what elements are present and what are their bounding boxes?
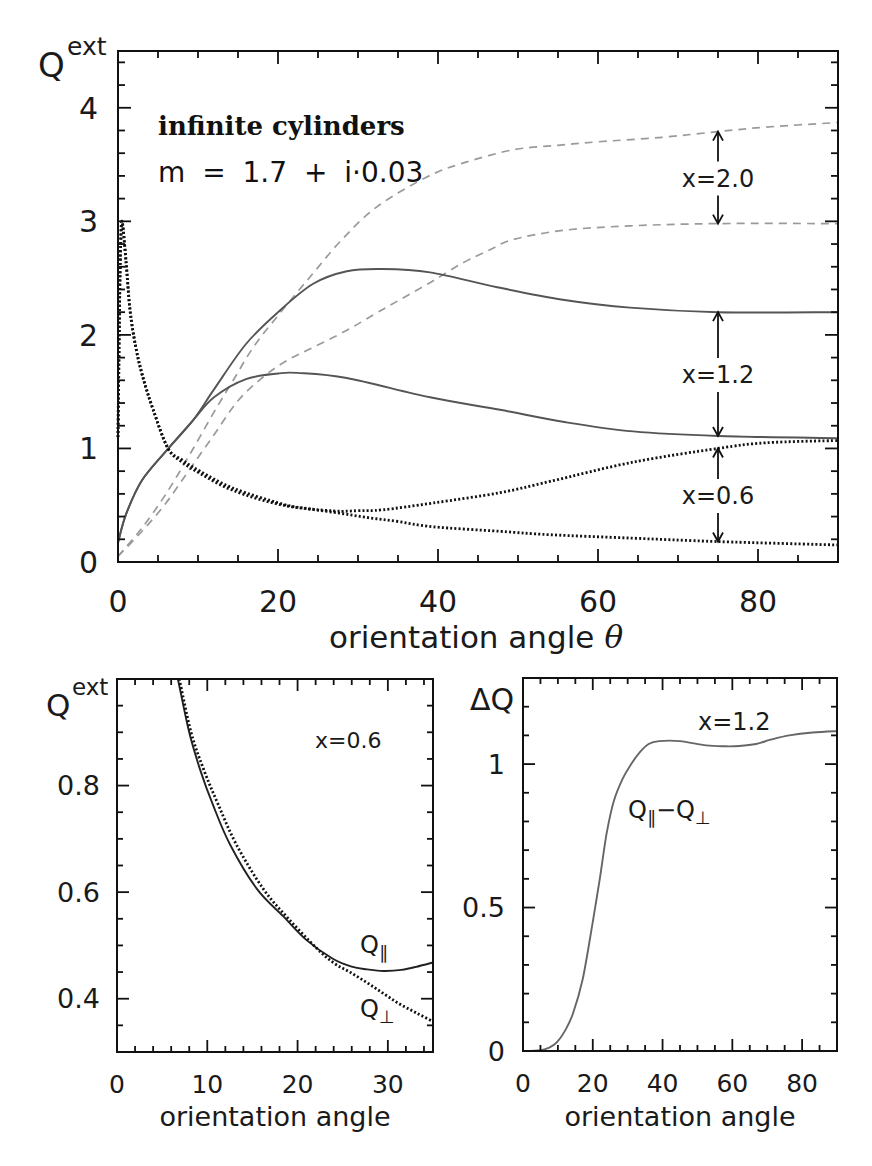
series-line-qpar	[178, 679, 433, 971]
y-tick-label: 4	[79, 91, 98, 126]
y-tick-label: 3	[79, 204, 98, 239]
x-tick-label: 80	[739, 584, 777, 619]
panel-bl: 01020300.40.60.8orientation angleQextx=0…	[46, 674, 433, 1132]
series-group	[178, 679, 433, 1022]
arrow-annotation: x=1.2	[682, 312, 754, 436]
series-line-qpar-minus-qperp	[523, 731, 837, 1051]
arrow-annotation: x=0.6	[682, 448, 754, 541]
plot-frame	[523, 678, 837, 1051]
x-axis-label: orientation angleθ	[329, 619, 623, 655]
annotation-subscript: ∥	[647, 807, 656, 828]
y-tick-label: 0.6	[57, 877, 100, 908]
y-axis-label-superscript: ext	[72, 674, 108, 700]
annotation-part: Q	[360, 995, 379, 1023]
x-tick-label: 0	[109, 1070, 125, 1099]
text-annotation: x=1.2	[698, 708, 770, 736]
y-tick-label: 0	[79, 545, 98, 580]
series-line-x-1-2-qperp	[118, 373, 838, 543]
y-tick-label: 1	[79, 431, 98, 466]
x-axis-label: orientation angle	[159, 1101, 390, 1132]
x-tick-label: 10	[191, 1070, 223, 1099]
x-tick-label: 0	[515, 1069, 531, 1098]
arrow-annotation: x=2.0	[682, 132, 754, 224]
y-tick-label: 0	[488, 1036, 505, 1067]
y-tick-label: 0.8	[57, 770, 100, 801]
annotation-part: Q	[628, 796, 647, 824]
x-tick-label: 80	[786, 1069, 818, 1098]
annotation-subscript: ⊥	[695, 807, 711, 828]
text-annotation: Q∥−Q⊥	[628, 796, 711, 828]
x-tick-label: 60	[716, 1069, 748, 1098]
x-tick-label: 20	[259, 584, 297, 619]
x-axis-label: orientation angle	[564, 1101, 795, 1132]
y-axis-label: ΔQ	[470, 682, 514, 717]
x-axis-label-text: orientation angle	[564, 1101, 795, 1132]
y-axis-label: Q	[46, 687, 70, 723]
text-annotation: Q∥	[360, 931, 388, 963]
x-tick-label: 40	[419, 584, 457, 619]
y-axis-label-superscript: ext	[67, 32, 107, 61]
text-annotation: Q⊥	[360, 995, 395, 1027]
y-axis-label-base: ΔQ	[470, 682, 514, 717]
panel-top: 02040608001234orientation angleθQextinfi…	[38, 32, 838, 655]
y-tick-label: 2	[79, 318, 98, 353]
figure: 02040608001234orientation angleθQextinfi…	[0, 0, 872, 1166]
x-tick-label: 60	[579, 584, 617, 619]
y-axis-label: Q	[38, 45, 65, 85]
x-axis-label-text: orientation angle	[329, 619, 594, 655]
annotation-subscript: ⊥	[379, 1006, 395, 1027]
y-axis-label-base: Q	[38, 45, 65, 85]
panel-br: 02040608000.51orientation angleΔQx=1.2Q∥…	[462, 678, 837, 1132]
y-tick-label: 0.5	[462, 892, 505, 923]
arrow-label: x=0.6	[682, 482, 754, 510]
text-annotation: x=0.6	[315, 728, 381, 753]
y-axis-label-base: Q	[46, 687, 70, 723]
arrow-label: x=1.2	[682, 361, 754, 389]
annotation-part: Q	[360, 931, 379, 959]
x-axis-label-symbol: θ	[604, 619, 623, 655]
annotation-subscript: ∥	[379, 942, 388, 963]
x-tick-label: 30	[372, 1070, 404, 1099]
x-tick-label: 20	[282, 1070, 314, 1099]
y-tick-label: 1	[488, 749, 505, 780]
arrow-label: x=2.0	[682, 165, 754, 193]
x-tick-label: 0	[108, 584, 127, 619]
x-tick-label: 20	[577, 1069, 609, 1098]
text-annotation: m = 1.7 + i·0.03	[158, 156, 423, 189]
text-annotation: infinite cylinders	[158, 111, 405, 141]
y-tick-label: 0.4	[57, 983, 100, 1014]
x-axis-label-text: orientation angle	[159, 1101, 390, 1132]
annotation-part: −Q	[656, 796, 695, 824]
x-tick-label: 40	[647, 1069, 679, 1098]
series-group	[523, 731, 837, 1051]
